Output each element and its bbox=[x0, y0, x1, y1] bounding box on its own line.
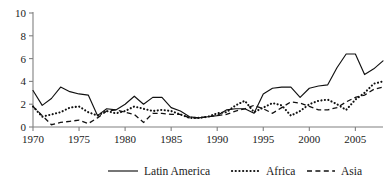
x-tick-label: 2005 bbox=[344, 133, 367, 145]
y-axis: 0246810 bbox=[15, 7, 33, 133]
x-tick-label: 2000 bbox=[298, 133, 321, 145]
x-tick-label: 1990 bbox=[206, 133, 229, 145]
series-layer bbox=[33, 54, 383, 125]
y-tick-label: 6 bbox=[21, 53, 27, 65]
legend-label-africa: Africa bbox=[266, 165, 295, 177]
legend-label-latin-america: Latin America bbox=[144, 165, 210, 177]
legend-label-asia: Asia bbox=[341, 165, 362, 177]
y-tick-label: 10 bbox=[15, 7, 27, 19]
x-tick-label: 1995 bbox=[252, 133, 275, 145]
series-latin-america bbox=[33, 54, 383, 118]
y-tick-label: 2 bbox=[21, 98, 27, 110]
x-axis: 19701975198019851990199520002005 bbox=[22, 127, 383, 145]
y-tick-label: 8 bbox=[21, 30, 27, 42]
x-tick-label: 1975 bbox=[68, 133, 91, 145]
y-tick-label: 4 bbox=[21, 75, 27, 87]
series-africa bbox=[33, 81, 383, 117]
chart-canvas: 0246810 19701975198019851990199520002005… bbox=[0, 0, 391, 193]
x-tick-label: 1980 bbox=[114, 133, 137, 145]
chart-legend: Latin AmericaAfricaAsia bbox=[108, 165, 362, 177]
x-tick-label: 1985 bbox=[160, 133, 183, 145]
series-asia bbox=[33, 87, 383, 125]
x-tick-label: 1970 bbox=[22, 133, 45, 145]
y-tick-label: 0 bbox=[21, 121, 27, 133]
line-chart: 0246810 19701975198019851990199520002005… bbox=[0, 0, 391, 193]
